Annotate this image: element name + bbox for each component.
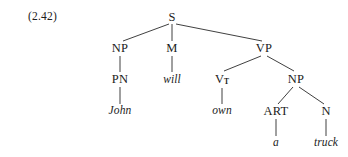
tree-node-label: S [168, 10, 175, 24]
tree-node-np2: NP [288, 73, 304, 86]
tree-edge-s-np1 [123, 24, 169, 41]
tree-node-label: V [215, 72, 224, 86]
tree-node-art: ART [264, 105, 289, 118]
tree-edge-np2-art [278, 87, 293, 104]
tree-node-label: John [109, 104, 132, 116]
tree-node-label: truck [314, 136, 338, 148]
tree-node-label: N [321, 104, 330, 118]
tree-node-vt: VT [215, 73, 229, 86]
tree-node-own: own [212, 105, 231, 117]
tree-node-john: John [109, 105, 132, 117]
tree-node-label: own [212, 104, 231, 116]
tree-node-label: a [273, 136, 279, 148]
tree-node-label: NP [112, 41, 128, 55]
tree-edge-np2-n [299, 87, 324, 104]
tree-node-subscript: T [224, 77, 229, 86]
tree-node-label: PN [112, 72, 128, 86]
tree-node-label: ART [264, 104, 289, 118]
tree-node-label: will [163, 73, 181, 85]
tree-node-m: M [166, 42, 177, 55]
tree-node-truck: truck [314, 137, 338, 149]
syntax-tree-figure: (2.42) SNPMVPPNwillVTNPJohnownARTNatruck [0, 0, 348, 157]
tree-node-np1: NP [112, 42, 128, 55]
tree-node-vp: VP [256, 42, 272, 55]
tree-node-a: a [273, 137, 279, 149]
tree-edge-vp-np2 [267, 56, 294, 71]
tree-node-label: VP [256, 41, 272, 55]
tree-node-label: M [166, 41, 177, 55]
tree-node-n: N [321, 105, 330, 118]
tree-node-label: NP [288, 72, 304, 86]
tree-node-pn: PN [112, 73, 128, 86]
tree-node-will: will [163, 74, 181, 86]
tree-node-s: S [168, 11, 175, 24]
tree-edge-s-vp [176, 24, 262, 41]
tree-edge-vp-vt [224, 56, 261, 71]
